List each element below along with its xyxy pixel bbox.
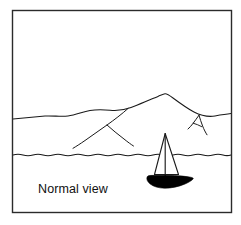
illustration-figure: Normal view xyxy=(0,0,241,225)
caption-normal-view: Normal view xyxy=(38,182,109,196)
sky-area xyxy=(13,11,231,155)
scene-canvas: Normal view xyxy=(0,0,241,225)
